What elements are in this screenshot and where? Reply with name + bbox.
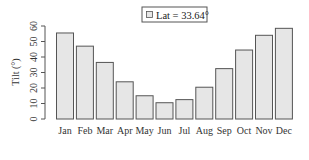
bar-oct — [236, 50, 253, 119]
y-tick-label: 20 — [28, 83, 39, 93]
x-tick-label: Sep — [217, 125, 232, 136]
x-tick-label: Mar — [96, 125, 113, 136]
y-tick-label: 30 — [28, 68, 39, 78]
bar-jul — [176, 100, 193, 119]
bar-mar — [96, 62, 113, 119]
tilt-bar-chart: 0102030405060 Tilt (°) JanFebMarAprMayJu… — [0, 0, 309, 160]
y-axis-title: Tilt (°) — [10, 58, 22, 85]
bar-apr — [116, 82, 133, 119]
y-tick-label: 10 — [28, 99, 39, 109]
x-tick-label: Jan — [58, 125, 71, 136]
x-axis-labels: JanFebMarAprMayJunJulAugSepOctNovDec — [58, 125, 292, 136]
y-tick-label: 0 — [28, 117, 39, 122]
x-tick-label: Nov — [255, 125, 272, 136]
x-tick-label: Aug — [196, 125, 213, 136]
x-tick-label: Jul — [179, 125, 191, 136]
y-axis: 0102030405060 — [28, 21, 45, 122]
legend: Lat = 33.64° — [142, 7, 209, 22]
bar-sep — [216, 69, 233, 119]
y-tick-label: 50 — [28, 37, 39, 47]
bar-aug — [196, 87, 213, 119]
bars — [57, 28, 293, 119]
bar-feb — [76, 46, 93, 119]
bar-nov — [256, 35, 273, 119]
y-tick-label: 40 — [28, 52, 39, 62]
bar-jun — [156, 103, 173, 119]
x-tick-label: Dec — [276, 125, 293, 136]
legend-label: Lat = 33.64° — [156, 10, 209, 21]
x-tick-label: May — [135, 125, 153, 136]
x-tick-label: Oct — [237, 125, 252, 136]
x-tick-label: Feb — [77, 125, 92, 136]
bar-jan — [57, 33, 74, 119]
legend-swatch-icon — [147, 12, 153, 18]
x-tick-label: Apr — [117, 125, 133, 136]
bar-may — [136, 96, 153, 119]
x-tick-label: Jun — [158, 125, 172, 136]
bar-dec — [275, 28, 292, 119]
y-tick-label: 60 — [28, 21, 39, 31]
